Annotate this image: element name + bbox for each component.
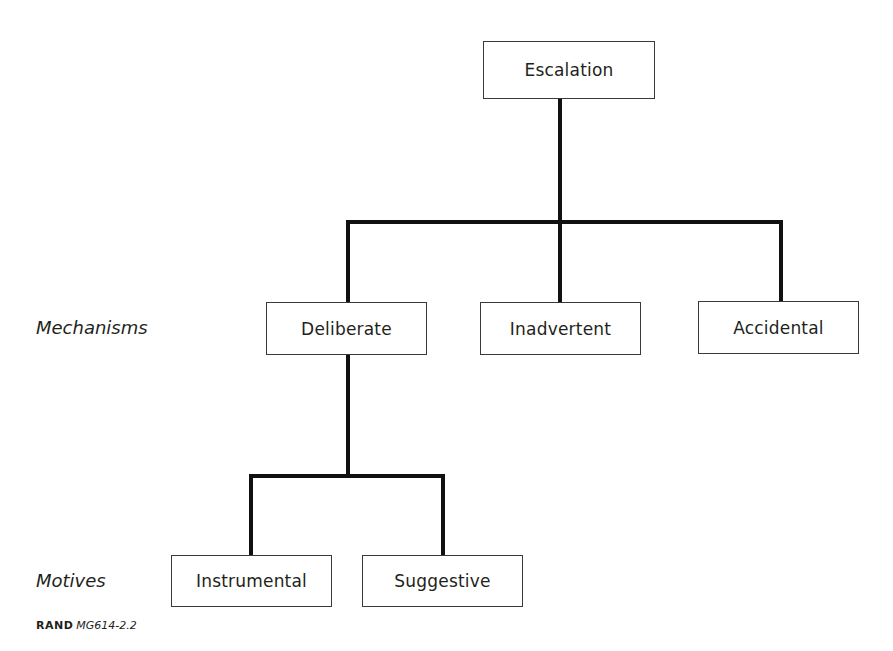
- figure-credit: RANDMG614-2.2: [36, 619, 137, 632]
- connector-root-down: [558, 99, 562, 224]
- node-suggestive: Suggestive: [362, 555, 523, 607]
- connector-to-accidental: [779, 220, 783, 302]
- connector-to-suggestive: [441, 474, 445, 556]
- connector-deliberate-down: [346, 355, 350, 478]
- connector-to-inadvertent: [558, 220, 562, 303]
- connector-mechanisms-bar: [346, 220, 783, 224]
- node-accidental: Accidental: [698, 301, 859, 354]
- node-instrumental: Instrumental: [171, 555, 332, 607]
- node-escalation: Escalation: [483, 41, 655, 99]
- connector-motives-bar: [249, 474, 445, 478]
- footer-org: RAND: [36, 619, 73, 632]
- connector-to-instrumental: [249, 474, 253, 556]
- row-label-motives: Motives: [36, 570, 106, 591]
- connector-to-deliberate: [346, 220, 350, 303]
- row-label-mechanisms: Mechanisms: [36, 317, 148, 338]
- footer-figure-code: MG614-2.2: [76, 619, 136, 632]
- node-inadvertent: Inadvertent: [480, 302, 641, 355]
- node-deliberate: Deliberate: [266, 302, 427, 355]
